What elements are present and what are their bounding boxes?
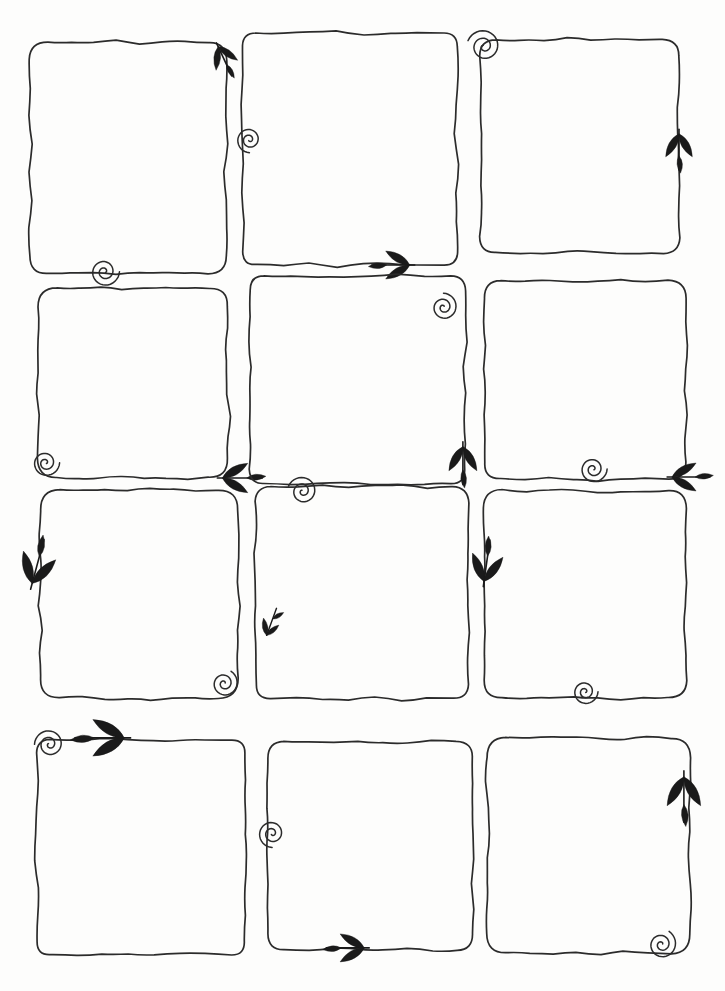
frame-outline — [484, 280, 688, 482]
spiral-curl — [35, 731, 62, 755]
hand-drawn-grid-artwork — [0, 0, 725, 991]
frame-1-1 — [29, 40, 238, 285]
leaf-arrow-down — [22, 535, 56, 589]
spiral-curl — [238, 130, 258, 153]
frame-outline — [38, 488, 240, 700]
spiral-curl — [260, 823, 282, 848]
frame-outline — [483, 490, 686, 700]
frame-1-3 — [468, 31, 692, 254]
frame-outline — [29, 40, 228, 274]
frame-outline — [254, 485, 469, 701]
spiral-curl — [289, 478, 315, 502]
leaf-arrow-down — [214, 43, 238, 78]
frame-outline — [241, 31, 459, 267]
frame-3-2 — [254, 478, 469, 701]
leaf-arrow-right — [323, 934, 369, 962]
frame-outline — [485, 737, 691, 955]
leaf-arrow-right — [70, 720, 130, 757]
frame-outline — [35, 738, 247, 955]
spiral-curl — [575, 683, 598, 703]
leaf-arrow-down — [472, 536, 503, 587]
leaf-arrow-up — [449, 442, 477, 488]
leaf-sprig-down — [262, 608, 283, 635]
leaf-arrow-left — [217, 463, 266, 492]
leaf-arrow-up — [666, 129, 693, 173]
frame-outline — [267, 740, 474, 951]
frame-outline — [37, 287, 231, 479]
frame-3-1 — [22, 488, 240, 700]
frame-3-3 — [472, 490, 687, 704]
spiral-curl — [582, 460, 607, 482]
spiral-curl — [434, 293, 456, 318]
frame-outline — [480, 38, 680, 254]
leaf-arrow-left — [667, 463, 713, 491]
frame-2-1 — [35, 287, 266, 493]
frames-sheet — [0, 0, 725, 991]
frame-4-2 — [260, 740, 474, 962]
frame-1-2 — [238, 31, 459, 279]
frame-4-1 — [35, 720, 247, 956]
frame-2-2 — [249, 274, 477, 488]
spiral-curl — [214, 671, 237, 695]
frame-4-3 — [485, 737, 700, 957]
frame-2-3 — [484, 280, 714, 491]
leaf-arrow-up — [667, 771, 701, 827]
